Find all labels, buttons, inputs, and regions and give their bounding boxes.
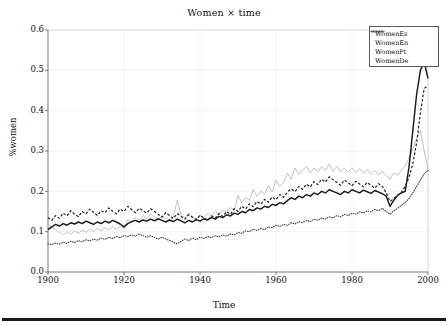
legend-label-womenpt: WomenPt [375, 48, 406, 56]
legend-sample-dotted-icon [370, 27, 385, 36]
legend-entry-womenen: WomenEn [373, 38, 436, 47]
chart-figure: Women × time %women Time 0.6 0.5 0.4 0.3… [0, 0, 448, 328]
chart-legend: WomenEs WomenEn WomenPt WomenDe [369, 26, 439, 67]
legend-label-womende: WomenDe [375, 57, 408, 65]
legend-entry-womenpt: WomenPt [373, 47, 436, 56]
legend-entry-womende: WomenDe [373, 56, 436, 65]
legend-label-womenen: WomenEn [375, 39, 408, 47]
bottom-divider [2, 318, 446, 321]
